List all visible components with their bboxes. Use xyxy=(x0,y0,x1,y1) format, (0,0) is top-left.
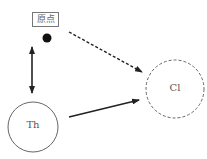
node-origin-label: 原点 xyxy=(37,14,55,24)
node-origin-box: 原点 xyxy=(32,12,59,27)
edge-th-cl xyxy=(69,100,139,117)
edge-origin-cl xyxy=(69,32,142,72)
node-cl-label: Cl xyxy=(160,82,190,93)
origin-dot xyxy=(43,34,52,43)
node-th-label: Th xyxy=(18,119,48,130)
